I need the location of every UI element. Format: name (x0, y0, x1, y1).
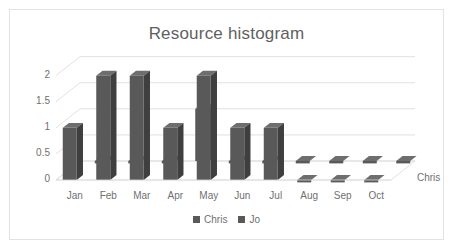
x-axis-tick-label-may: May (192, 190, 226, 201)
bar-chris-mar (130, 71, 150, 180)
x-axis-tick-label-jan: Jan (58, 190, 92, 201)
bar-chris-jun (230, 123, 250, 180)
x-axis-tick-label-mar: Mar (125, 190, 159, 201)
x-axis-tick-label-feb: Feb (91, 190, 125, 201)
plot-area (10, 54, 445, 204)
x-axis-tick-label-apr: Apr (158, 190, 192, 201)
chart-title: Resource histogram (10, 24, 443, 44)
y-axis-tick-label: 1 (24, 121, 50, 132)
bar-chris-jul (264, 123, 284, 180)
x-axis-tick-label-jul: Jul (259, 190, 293, 201)
chart-canvas (10, 54, 445, 204)
chart-container: Resource histogram 00.511.52JanFebMarApr… (9, 9, 444, 240)
y-axis-tick-label: 0.5 (24, 147, 50, 158)
legend-swatch-icon (193, 216, 200, 223)
bar-chris-may (197, 71, 217, 180)
legend-item-jo[interactable]: Jo (238, 214, 260, 225)
x-axis-tick-label-jun: Jun (225, 190, 259, 201)
legend-label: Jo (249, 214, 260, 225)
x-axis-tick-label-aug: Aug (292, 190, 326, 201)
bar-chris-jan (63, 123, 83, 180)
legend-item-chris[interactable]: Chris (193, 214, 227, 225)
y-axis-tick-label: 1.5 (24, 95, 50, 106)
y-axis-tick-label: 0 (24, 173, 50, 184)
y-axis-tick-label: 2 (24, 69, 50, 80)
depth-axis-label: Chris (417, 172, 440, 183)
bar-chris-feb (96, 71, 116, 180)
legend-label: Chris (204, 214, 227, 225)
legend-swatch-icon (238, 216, 245, 223)
bar-chris-apr (163, 123, 183, 180)
x-axis-tick-label-sep: Sep (326, 190, 360, 201)
chart-legend: ChrisJo (10, 214, 443, 225)
x-axis-tick-label-oct: Oct (359, 190, 393, 201)
